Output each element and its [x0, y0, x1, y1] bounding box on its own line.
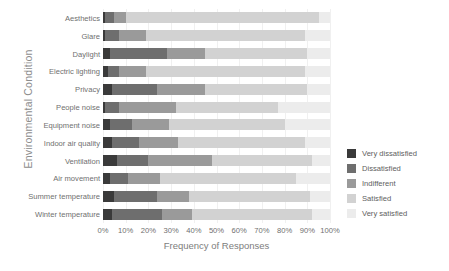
legend-item[interactable]: Indifferent: [347, 176, 447, 191]
gridline: [330, 9, 331, 223]
plot-area: [103, 9, 330, 223]
stacked-bar: [103, 102, 330, 113]
bar-segment: [178, 137, 305, 148]
bar-row: [103, 155, 330, 166]
legend-item[interactable]: Very dissatisfied: [347, 146, 447, 161]
x-axis-tick-label: 0%: [98, 226, 109, 235]
x-axis-tick-label: 60%: [232, 226, 247, 235]
legend-item[interactable]: Very satisfied: [347, 206, 447, 221]
bar-segment: [105, 30, 119, 41]
bar-row: [103, 173, 330, 184]
legend-swatch: [347, 179, 356, 188]
bar-segment: [132, 119, 168, 130]
bar-row: [103, 191, 330, 202]
bar-segment: [167, 48, 206, 59]
bar-segment: [105, 12, 114, 23]
bar-segment: [103, 209, 112, 220]
x-axis-tick-label: 20%: [141, 226, 156, 235]
bar-segment: [146, 66, 305, 77]
bar-segment: [112, 84, 157, 95]
bar-segment: [312, 209, 330, 220]
bar-segment: [169, 119, 285, 130]
y-axis-tick-label: Equipment noise: [14, 120, 100, 129]
legend-label: Very dissatisfied: [362, 149, 417, 158]
y-axis-tick-label: Daylight: [14, 49, 100, 58]
bar-segment: [119, 66, 146, 77]
bar-segment: [160, 173, 296, 184]
bar-segment: [310, 191, 330, 202]
y-axis-tick-label: Glare: [14, 31, 100, 40]
legend-item[interactable]: Satisfied: [347, 191, 447, 206]
legend-item[interactable]: Dissatisfied: [347, 161, 447, 176]
x-axis-tick-label: 50%: [209, 226, 224, 235]
bar-segment: [148, 155, 212, 166]
bar-segment: [212, 155, 312, 166]
bar-segment: [305, 30, 330, 41]
bar-segment: [103, 191, 114, 202]
bar-row: [103, 66, 330, 77]
bar-segment: [139, 137, 178, 148]
bar-row: [103, 209, 330, 220]
x-axis-tick-label: 30%: [163, 226, 178, 235]
bar-segment: [312, 155, 330, 166]
bar-segment: [296, 173, 330, 184]
stacked-bar: [103, 48, 330, 59]
stacked-bar: [103, 84, 330, 95]
legend-label: Satisfied: [362, 194, 391, 203]
bar-segment: [126, 12, 319, 23]
bar-segment: [119, 102, 176, 113]
legend-label: Very satisfied: [362, 209, 407, 218]
bar-segment: [114, 191, 157, 202]
bar-segment: [162, 209, 192, 220]
x-axis-tick-label: 100%: [320, 226, 339, 235]
y-axis-tick-label: Ventilation: [14, 156, 100, 165]
bar-segment: [157, 191, 189, 202]
bar-row: [103, 119, 330, 130]
bar-segment: [205, 84, 307, 95]
y-axis-tick-label: Indoor air quality: [14, 138, 100, 147]
bar-segment: [176, 102, 278, 113]
bar-row: [103, 137, 330, 148]
bar-segment: [307, 48, 330, 59]
bar-segment: [114, 12, 125, 23]
bar-segment: [112, 209, 162, 220]
bar-row: [103, 30, 330, 41]
bar-segment: [103, 84, 112, 95]
bar-segment: [285, 119, 330, 130]
bar-segment: [117, 155, 149, 166]
x-axis-tick-label: 10%: [118, 226, 133, 235]
bar-segment: [305, 66, 330, 77]
chart-figure: Environmental Condition AestheticsGlareD…: [0, 0, 449, 271]
bar-segment: [146, 30, 305, 41]
bar-segment: [205, 48, 307, 59]
bar-row: [103, 48, 330, 59]
x-axis-tick-label: 90%: [300, 226, 315, 235]
bar-segment: [110, 173, 128, 184]
stacked-bar: [103, 155, 330, 166]
x-axis-tick-label: 40%: [186, 226, 201, 235]
y-axis-tick-label: Winter temperature: [14, 210, 100, 219]
bar-segment: [112, 137, 139, 148]
legend-swatch: [347, 194, 356, 203]
bar-segment: [119, 30, 146, 41]
x-axis-tick-labels: 0%10%20%30%40%50%60%70%80%90%100%: [103, 226, 330, 238]
legend-swatch: [347, 149, 356, 158]
y-axis-tick-label: Privacy: [14, 85, 100, 94]
bar-segment: [108, 66, 119, 77]
y-axis-tick-label: Air movement: [14, 174, 100, 183]
stacked-bar: [103, 119, 330, 130]
stacked-bar: [103, 209, 330, 220]
y-axis-tick-labels: AestheticsGlareDaylightElectric lighting…: [14, 9, 100, 223]
chart-legend: Very dissatisfiedDissatisfiedIndifferent…: [347, 146, 447, 221]
bar-segment: [128, 173, 160, 184]
legend-swatch: [347, 164, 356, 173]
bar-segment: [110, 48, 167, 59]
x-axis-tick-label: 80%: [277, 226, 292, 235]
bar-segment: [192, 209, 312, 220]
stacked-bar: [103, 137, 330, 148]
y-axis-tick-label: Summer temperature: [14, 192, 100, 201]
bar-row: [103, 12, 330, 23]
bar-row: [103, 84, 330, 95]
bar-segment: [278, 102, 330, 113]
y-axis-tick-label: Electric lighting: [14, 67, 100, 76]
